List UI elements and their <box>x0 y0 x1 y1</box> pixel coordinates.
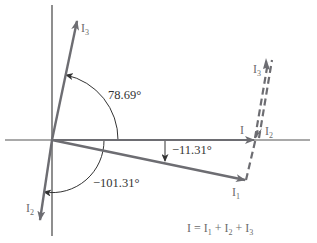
label-i-main: I <box>240 123 244 137</box>
phasor-i2 <box>40 140 52 220</box>
dashed-i3-arrowhead <box>263 58 270 70</box>
angle-label-78-69: 78.69° <box>108 88 141 102</box>
label-i1: I1 <box>232 185 240 201</box>
label-i2-right: I2 <box>265 124 273 140</box>
angle-label-neg-11-31: −11.31° <box>172 143 212 157</box>
phasor-diagram: I3 I2 I1 I I2 I3 78.69° −11.31° −101.31°… <box>0 0 317 243</box>
angle-arc-78-69 <box>66 75 118 140</box>
angle-label-neg-101-31: −101.31° <box>93 176 139 190</box>
sum-equation: I = I1 + I2 + I3 <box>187 221 253 237</box>
label-i2-left: I2 <box>26 201 34 217</box>
label-i3-right: I3 <box>253 62 261 78</box>
label-i3-left: I3 <box>81 21 89 37</box>
phasor-i3 <box>52 21 77 140</box>
phasor-i1 <box>52 140 245 180</box>
